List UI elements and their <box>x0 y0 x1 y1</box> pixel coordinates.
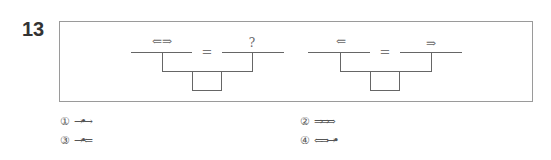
equation-1-equals: = <box>200 44 214 59</box>
choice-2[interactable]: ②⇒⇒⇒ <box>300 115 333 128</box>
balance-diagram-frame <box>59 21 533 102</box>
choice-2-symbol: ⇒⇒⇒ <box>314 115 333 128</box>
choice-3[interactable]: ③→•⇐ <box>60 134 90 147</box>
choice-3-symbol: →•⇐ <box>74 134 90 147</box>
equation-1-left-symbol: ⇐⇒ <box>142 34 182 48</box>
equation-1-left-stem <box>162 52 163 72</box>
equation-1-right-stem <box>252 52 253 72</box>
equation-1-answer-box <box>192 71 222 91</box>
choice-4[interactable]: ④⇐⇒→• <box>300 134 336 147</box>
equation-2-answer-box <box>370 71 400 91</box>
equation-2-right-stem <box>431 52 432 72</box>
choice-4-number: ④ <box>300 134 310 147</box>
equation-2-left-line <box>308 52 370 53</box>
choice-4-symbol: ⇐⇒→• <box>314 134 336 147</box>
equation-1-right-line <box>222 52 284 53</box>
choice-3-number: ③ <box>60 134 70 147</box>
equation-2-equals: = <box>378 44 392 59</box>
equation-2-left-stem <box>340 52 341 72</box>
equation-1-right-symbol: ? <box>232 36 272 50</box>
choice-1[interactable]: ①→•→ <box>60 115 90 128</box>
equation-2-right-symbol: ⇒ <box>411 36 451 50</box>
choice-1-number: ① <box>60 115 70 128</box>
choice-2-number: ② <box>300 115 310 128</box>
question-number: 13 <box>22 18 44 41</box>
equation-2-left-symbol: ⇐ <box>321 34 361 48</box>
choice-1-symbol: →•→ <box>74 115 90 128</box>
